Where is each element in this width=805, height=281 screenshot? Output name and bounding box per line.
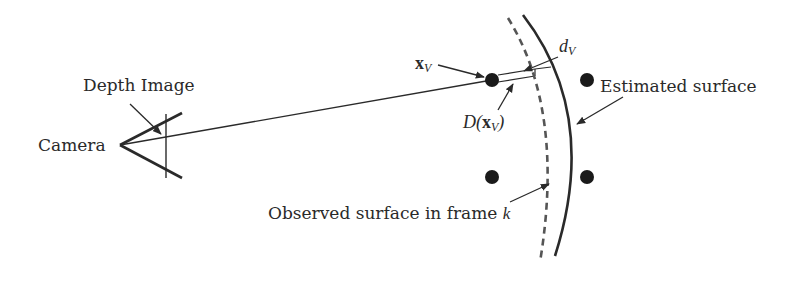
estimated-surface-arrow (577, 97, 623, 124)
depth-value-prefix: D( (463, 112, 482, 132)
point-xv-sub: V (424, 61, 431, 75)
depth-value-label: D(xV) (463, 113, 504, 133)
distance-dv-label: dV (559, 37, 575, 57)
camera-label: Camera (38, 137, 106, 154)
voxel-point (485, 73, 499, 87)
depth-segment (498, 69, 535, 82)
depth-value-suffix: ) (498, 112, 504, 132)
point-xv-base: x (415, 53, 424, 73)
depth-image-arrow (130, 104, 161, 134)
distance-segment (535, 67, 551, 69)
voxel-point (485, 170, 499, 184)
xv-arrow (438, 65, 484, 77)
depth-value-arrow (498, 84, 513, 110)
distance-dv-sub: V (568, 44, 575, 58)
distance-dv-base: d (559, 36, 568, 56)
diagram-canvas (0, 0, 805, 281)
observed-surface-text: Observed surface in frame (268, 203, 503, 223)
depth-fusion-diagram: Depth Image Camera xV dV D(xV) Estimated… (0, 0, 805, 281)
voxel-point (580, 73, 594, 87)
observed-surface-label: Observed surface in frame k (268, 205, 510, 222)
observed-surface-arrow (510, 184, 549, 202)
point-xv-label: xV (415, 54, 431, 74)
camera-icon (120, 113, 182, 178)
observed-surface-curve (508, 18, 548, 262)
voxel-point (580, 170, 594, 184)
depth-value-x: x (482, 112, 491, 132)
frame-variable: k (503, 204, 511, 223)
depth-image-label: Depth Image (83, 77, 195, 94)
estimated-surface-label: Estimated surface (600, 78, 757, 95)
